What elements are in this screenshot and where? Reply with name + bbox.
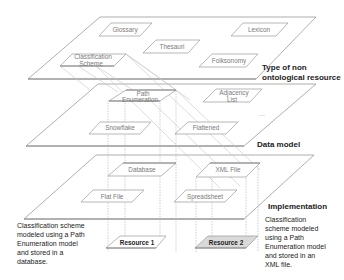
layer-label-resource-type-1: Type of non xyxy=(262,63,307,72)
note-left: Classification scheme modeled using a Pa… xyxy=(17,222,85,265)
adjacency-label-2: List xyxy=(227,96,237,103)
database-label: Database xyxy=(128,166,156,173)
note-left-line: Classification scheme xyxy=(17,222,85,229)
layered-diagram: Glossary Lexicon Thesauri Classification… xyxy=(0,0,344,280)
note-right-line: Classification xyxy=(265,216,306,223)
box-resource-1: Resource 1 xyxy=(106,236,166,248)
folksonomy-label: Folksonomy xyxy=(212,57,247,65)
note-left-line: Enumeration model xyxy=(17,240,78,247)
box-snowflake: Snowflake xyxy=(89,122,151,134)
classification-label-1: Classification xyxy=(74,53,112,60)
note-right-line: and stored in an xyxy=(265,252,315,259)
layer-label-implementation: Implementation xyxy=(268,202,327,211)
flat-file-label: Flat File xyxy=(101,193,124,200)
box-resource-2: Resource 2 xyxy=(195,236,258,248)
note-right-line: Enumeration model xyxy=(265,243,326,250)
note-right: Classification scheme modeled using a Pa… xyxy=(265,216,326,268)
note-right-line: XML file. xyxy=(265,261,292,268)
resource-1-label: Resource 1 xyxy=(120,239,155,246)
snowflake-label: Snowflake xyxy=(105,124,135,131)
note-left-line: database. xyxy=(17,258,48,265)
glossary-label: Glossary xyxy=(112,26,138,34)
path-label-2: Enumeration xyxy=(122,96,159,103)
resource-2-label: Resource 2 xyxy=(209,239,244,246)
thesauri-label: Thesauri xyxy=(160,43,185,50)
note-left-line: modeled using a Path xyxy=(17,231,85,239)
layer-label-data-model: Data model xyxy=(257,140,300,149)
layer-label-resource-type-2: ontological resource xyxy=(262,73,341,82)
note-right-line: using a Path xyxy=(265,234,304,242)
xml-file-label: XML File xyxy=(216,166,241,173)
flattened-label: Flattened xyxy=(193,124,220,131)
note-left-line: and stored in a xyxy=(17,249,63,256)
note-right-line: scheme modeled xyxy=(265,225,318,232)
classification-label-2: Scheme xyxy=(79,60,103,67)
spreadsheet-label: Spreadsheet xyxy=(187,193,223,201)
lexicon-label: Lexicon xyxy=(248,26,270,33)
more-data-models-ellipsis: ... xyxy=(259,110,265,117)
